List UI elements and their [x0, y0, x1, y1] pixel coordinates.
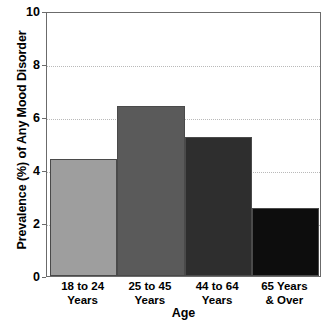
y-tick-label: 2 [8, 218, 40, 230]
x-tick-label: 65 Years & Over [251, 280, 318, 307]
x-tick-label: 44 to 64 Years [184, 280, 251, 307]
bar [117, 106, 184, 276]
bars-group [47, 13, 320, 276]
y-tick-label: 6 [8, 112, 40, 124]
bar [252, 208, 319, 276]
bar [185, 137, 252, 276]
y-tick-label: 10 [8, 6, 40, 18]
bar-chart: Prevalence (%) of Any Mood Disorder 0246… [0, 0, 328, 323]
y-tick-label: 8 [8, 59, 40, 71]
x-tick-label: 25 to 45 Years [116, 280, 183, 307]
x-axis-title: Age [46, 306, 321, 320]
x-tick-label: 18 to 24 Years [49, 280, 116, 307]
y-tick-mark [42, 277, 46, 278]
y-tick-label: 0 [8, 271, 40, 283]
bar [50, 159, 117, 276]
y-tick-label: 4 [8, 165, 40, 177]
plot-area [46, 12, 321, 277]
